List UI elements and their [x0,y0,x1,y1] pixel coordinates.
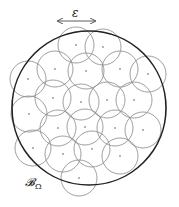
ball-center-dot [102,46,103,47]
domain-ball-subscript: Ω [35,182,42,191]
ball-center-dot [52,97,53,98]
domain-ball-symbol: 𝓑 [25,176,35,189]
ball-center-dot [119,155,120,156]
ball-center-dot [142,129,143,130]
ball-center-dot [57,127,58,128]
ball-center-dot [147,73,148,74]
ball-center-dot [54,68,55,69]
ball-center-dot [85,70,86,71]
ball-center-dot [106,99,107,100]
ball-center-dot [75,44,76,45]
ball-center-dot [27,78,28,79]
ball-center-dot [32,147,33,148]
ball-center-dot [28,113,29,114]
domain-ball-boundary [12,31,166,185]
domain-ball-label: 𝓑Ω [25,176,42,191]
ball-center-dot [62,153,63,154]
ball-center-dot [114,127,115,128]
ball-center-dot [80,101,81,102]
ball-center-dot [78,177,79,178]
ball-center-dot [119,68,120,69]
epsilon-label: ε [72,6,78,20]
ball-center-dot [133,99,134,100]
ball-center-dot [91,148,92,149]
ball-center-dot [84,126,85,127]
